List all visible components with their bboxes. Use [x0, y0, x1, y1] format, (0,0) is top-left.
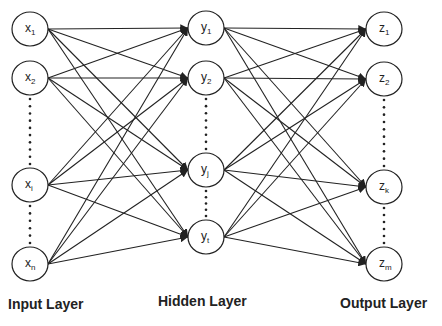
ellipsis-dot	[383, 150, 386, 153]
hidden-layer-label: Hidden Layer	[158, 293, 247, 309]
node-zk: zk	[366, 170, 402, 204]
ellipsis-dot	[29, 205, 32, 208]
node-xn: xn	[12, 247, 48, 281]
ellipsis-dot	[29, 134, 32, 137]
edge-yt-z1	[224, 29, 366, 237]
ellipsis-dot	[29, 242, 32, 245]
edge-y1-zk	[224, 28, 366, 187]
ellipsis-dot	[383, 235, 386, 238]
ellipsis-dot	[383, 242, 386, 245]
output-layer-label: Output Layer	[340, 295, 427, 311]
edge-xi-y2	[48, 78, 188, 185]
node-x1: x1	[12, 12, 48, 46]
ellipsis-dot	[29, 234, 32, 237]
edge-x2-yt	[48, 78, 188, 237]
input-layer-label: Input Layer	[8, 296, 83, 312]
ellipsis-dot	[205, 215, 208, 218]
ellipsis-dot	[29, 112, 32, 115]
ellipsis-dot	[29, 127, 32, 130]
edge-yj-z1	[224, 29, 366, 170]
ellipsis-dot	[29, 98, 32, 101]
ellipsis-dot	[205, 208, 208, 211]
ellipsis-dot	[205, 148, 208, 151]
ellipsis-dot	[205, 196, 208, 199]
node-z1: z1	[366, 12, 402, 46]
ellipsis-dot	[383, 221, 386, 224]
node-yj: yj	[188, 153, 224, 187]
ellipsis-dot	[29, 119, 32, 122]
ellipsis-dot	[383, 121, 386, 124]
ellipsis-dot	[383, 165, 386, 168]
node-y1: y1	[188, 11, 224, 45]
node-zm: zm	[366, 247, 402, 281]
ellipsis-dot	[383, 113, 386, 116]
ellipsis-dot	[383, 128, 386, 131]
ellipsis-dot	[383, 135, 386, 138]
edge-xn-y1	[48, 28, 188, 264]
edge-xn-yj	[48, 170, 188, 264]
ellipsis-dot	[383, 214, 386, 217]
edge-x1-yt	[48, 29, 188, 237]
node-xi: xi	[12, 168, 48, 202]
ellipsis-dot	[29, 163, 32, 166]
ellipsis-dot	[29, 148, 32, 151]
edge-yj-z2	[224, 79, 366, 170]
node-yt: yt	[188, 220, 224, 254]
ellipsis-dot	[205, 105, 208, 108]
ellipsis-dot	[205, 202, 208, 205]
edge-y1-zm	[224, 28, 366, 264]
ellipsis-dot	[29, 105, 32, 108]
ellipsis-dot	[29, 220, 32, 223]
ellipsis-dot	[205, 126, 208, 129]
node-z2: z2	[366, 62, 402, 96]
ellipsis-dot	[29, 155, 32, 158]
edge-x1-yj	[48, 29, 188, 170]
ellipsis-dot	[29, 141, 32, 144]
edge-x1-y1	[48, 28, 188, 29]
node-x2: x2	[12, 61, 48, 95]
neural-network-diagram: x1x2xixny1y2yjytz1z2zkzm	[0, 0, 442, 326]
ellipsis-dot	[383, 106, 386, 109]
ellipsis-dot	[205, 112, 208, 115]
ellipsis-dot	[205, 133, 208, 136]
ellipsis-dot	[205, 119, 208, 122]
ellipsis-dot	[29, 227, 32, 230]
edge-yt-z2	[224, 79, 366, 237]
edge-y2-z1	[224, 29, 366, 78]
ellipsis-dot	[205, 190, 208, 193]
node-y2: y2	[188, 61, 224, 95]
edge-y1-z1	[224, 28, 366, 29]
ellipsis-dot	[205, 98, 208, 101]
ellipsis-dot	[205, 141, 208, 144]
edge-y2-z2	[224, 78, 366, 79]
ellipsis-dot	[383, 228, 386, 231]
ellipsis-dot	[29, 212, 32, 215]
edge-x2-yj	[48, 78, 188, 170]
ellipsis-dot	[383, 207, 386, 210]
ellipsis-dot	[383, 99, 386, 102]
ellipsis-dot	[383, 157, 386, 160]
edge-xi-yj	[48, 170, 188, 185]
ellipsis-dot	[383, 143, 386, 146]
